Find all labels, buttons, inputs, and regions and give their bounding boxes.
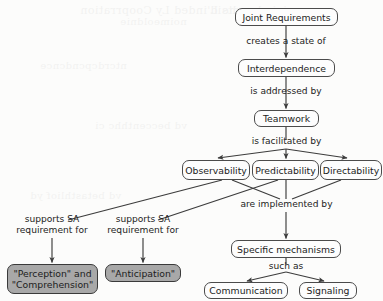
node-teamwork[interactable]: Teamwork	[254, 110, 319, 127]
edge-observability-to-mechanisms	[232, 180, 280, 199]
ghost-text: he L'inded Ly Cooprration	[80, 4, 236, 17]
node-communication[interactable]: Communication	[204, 282, 288, 299]
node-label: "Anticipation"	[111, 268, 175, 279]
node-directability[interactable]: Directability	[320, 160, 382, 180]
edge-label-text: supports SA requirement for	[16, 214, 88, 235]
node-label: Signaling	[307, 285, 350, 296]
edge-label-such-as: such as	[256, 261, 316, 272]
ghost-text: ntcrdcpcndcnce	[40, 60, 127, 71]
node-signaling[interactable]: Signaling	[299, 282, 357, 299]
edge-teamwork-to-directability	[286, 149, 347, 158]
ghost-text: vd betasthliof yd	[30, 190, 121, 201]
node-label: Interdependence	[247, 63, 326, 74]
ghost-text: vd beccenthhc ci	[95, 120, 187, 131]
node-label: Directability	[323, 165, 379, 176]
edge-such-as-to-communication	[247, 272, 286, 281]
node-label: Predictability	[255, 165, 316, 176]
concept-map-diagram: he L'inded Ly Cooprration rejoind contsi…	[0, 0, 383, 301]
edge-label-creates-a-state-of: creates a state of	[229, 36, 343, 47]
edge-such-as-to-signaling	[286, 272, 324, 281]
edge-label-text: is facilitated by	[252, 136, 322, 146]
edge-label-text: are implemented by	[240, 199, 332, 209]
ghost-text: noimeoldnie	[120, 16, 187, 27]
node-label: Observability	[185, 165, 247, 176]
node-label: Joint Requirements	[242, 12, 330, 23]
node-predictability[interactable]: Predictability	[252, 160, 319, 180]
edge-label-is-addressed-by: is addressed by	[231, 86, 341, 97]
edge-label-are-implemented-by: are implemented by	[227, 199, 346, 210]
edge-teamwork-to-observability	[218, 149, 286, 158]
edge-label-text: creates a state of	[246, 36, 326, 46]
node-joint-requirements[interactable]: Joint Requirements	[235, 8, 338, 26]
edge-label-text: is addressed by	[250, 86, 321, 96]
node-specific-mechanisms[interactable]: Specific mechanisms	[231, 240, 341, 258]
edge-directability-to-mechanisms	[292, 180, 341, 199]
node-label: Communication	[209, 285, 282, 296]
edge-label-supports-sa-requirement-for-right: supports SA requirement for	[102, 214, 184, 236]
edge-label-supports-sa-requirement-for-left: supports SA requirement for	[11, 214, 93, 236]
node-label: Specific mechanisms	[237, 244, 335, 255]
node-observability[interactable]: Observability	[182, 160, 250, 180]
edge-label-text: supports SA requirement for	[107, 214, 179, 235]
node-label: Teamwork	[263, 113, 310, 124]
edge-label-is-facilitated-by: is facilitated by	[234, 136, 339, 147]
node-interdependence[interactable]: Interdependence	[238, 59, 335, 77]
node-label: "Perception" and "Comprehension"	[12, 268, 94, 291]
node-anticipation[interactable]: "Anticipation"	[105, 264, 181, 282]
edge-label-text: such as	[269, 261, 303, 271]
node-perception-comprehension[interactable]: "Perception" and "Comprehension"	[7, 264, 98, 294]
